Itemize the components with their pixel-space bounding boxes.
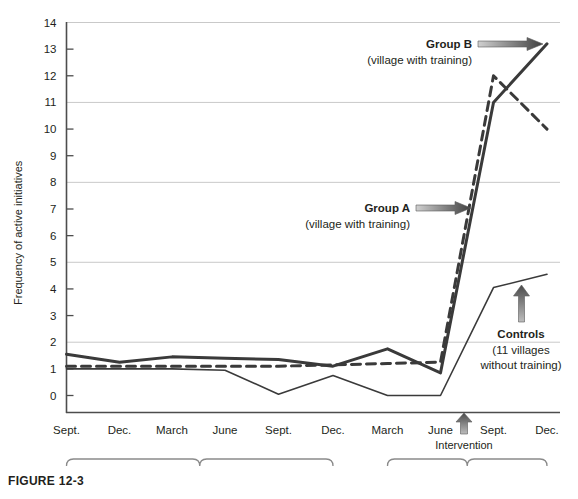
controls-arrow-icon — [514, 285, 530, 322]
controls-sublabel-line1: (11 villages — [492, 344, 550, 356]
y-tick-label: 6 — [50, 230, 56, 242]
group-a-label: Group A — [364, 202, 410, 214]
intervention-arrow-icon — [456, 413, 472, 434]
y-tick-label: 1 — [50, 363, 56, 375]
series-line-controls — [67, 274, 548, 395]
figure-root: 01234567891011121314 Sept.Dec.MarchJuneS… — [0, 0, 578, 499]
x-tick-label: Sept. — [265, 424, 292, 436]
x-tick-label: Sept. — [53, 424, 80, 436]
x-tick-label: March — [156, 424, 188, 436]
x-tick-label: March — [372, 424, 404, 436]
group-b-sublabel: (village with training) — [367, 54, 472, 66]
y-tick-label: 7 — [50, 203, 56, 215]
x-axis-ticks: Sept.Dec.MarchJuneSept.Dec.MarchJuneSept… — [53, 413, 559, 437]
controls-callout: Controls (11 villages without training) — [479, 285, 561, 371]
group-b-callout: Group B (village with training) — [367, 38, 543, 67]
line-chart: 01234567891011121314 Sept.Dec.MarchJuneS… — [0, 0, 578, 470]
x-tick-label: Dec. — [108, 424, 132, 436]
x-tick-label: Dec. — [535, 424, 559, 436]
y-tick-label: 2 — [50, 336, 56, 348]
y-tick-label: 0 — [50, 390, 56, 402]
y-tick-label: 5 — [50, 256, 56, 268]
y-tick-label: 8 — [50, 176, 56, 188]
y-tick-label: 10 — [44, 123, 57, 135]
x-tick-label: June — [213, 424, 238, 436]
y-tick-label: 13 — [44, 43, 57, 55]
period-bracket — [388, 459, 548, 466]
y-tick-label: 12 — [44, 70, 57, 82]
x-tick-label: Sept. — [480, 424, 507, 436]
series-line-group-b — [67, 44, 548, 373]
controls-label: Controls — [497, 328, 544, 340]
controls-sublabel-line2: without training) — [479, 359, 561, 371]
x-tick-label: Dec. — [321, 424, 345, 436]
y-tick-label: 14 — [44, 17, 57, 29]
intervention-label: Intervention — [435, 439, 492, 451]
group-b-label: Group B — [426, 38, 472, 50]
group-a-sublabel: (village with training) — [305, 218, 410, 230]
gridlines — [67, 23, 561, 343]
y-tick-label: 3 — [50, 310, 56, 322]
group-a-callout: Group A (village with training) — [305, 202, 471, 231]
y-axis-ticks: 01234567891011121314 — [44, 17, 74, 402]
group-b-pointer-arrow-icon — [478, 38, 543, 51]
group-a-pointer-arrow-icon — [416, 202, 471, 215]
y-axis-title: Frequency of active initiatives — [12, 160, 24, 305]
x-tick-label: June — [428, 424, 453, 436]
y-tick-label: 9 — [50, 150, 56, 162]
y-tick-label: 4 — [50, 283, 57, 295]
figure-caption: FIGURE 12-3 — [8, 474, 84, 488]
y-tick-label: 11 — [45, 96, 57, 108]
period-brackets: 19761977 — [67, 459, 548, 470]
period-bracket — [67, 459, 334, 466]
